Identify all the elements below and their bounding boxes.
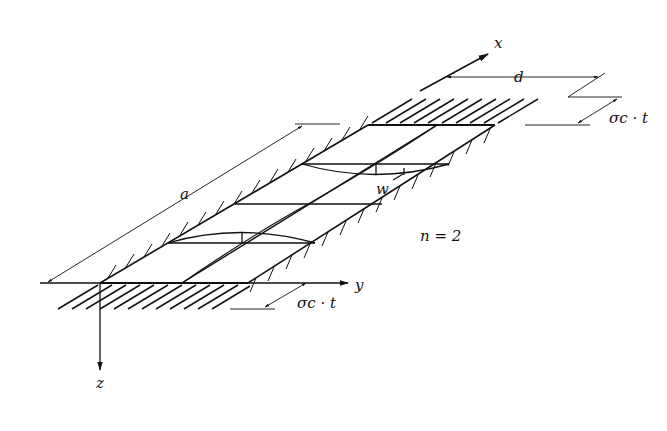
dimension-a-label: a — [180, 185, 189, 203]
deflection-label: w — [376, 180, 389, 198]
top-load-arrows — [372, 99, 538, 123]
mode-label: n = 2 — [420, 227, 461, 245]
x-axis-arrow — [420, 54, 488, 91]
bottom-load-label: σc · t — [297, 294, 337, 312]
plate-buckling-diagram: x y z a d σc · t σc · t w n = 2 — [0, 0, 667, 431]
bottom-load-arrows — [58, 285, 250, 309]
y-axis-label: y — [354, 276, 364, 294]
dimension-d-label: d — [514, 68, 524, 86]
top-load-label: σc · t — [609, 109, 649, 127]
left-support-hatching — [108, 116, 368, 278]
z-axis-label: z — [95, 374, 104, 392]
right-support-hatching — [250, 129, 490, 292]
x-axis-label: x — [494, 34, 503, 52]
